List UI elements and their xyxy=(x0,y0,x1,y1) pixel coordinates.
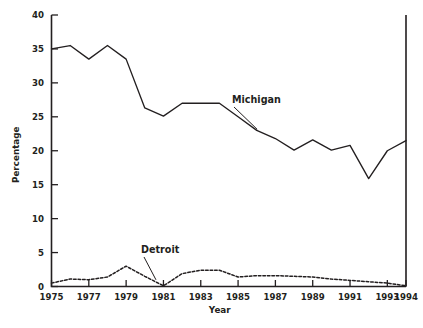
y-tick-label-10: 10 xyxy=(32,214,44,224)
y-tick-label-35: 35 xyxy=(32,44,44,54)
series-annotation-detroit: Detroit xyxy=(141,244,180,255)
y-tick-label-30: 30 xyxy=(32,78,44,88)
x-tick-label-1985: 1985 xyxy=(226,292,250,302)
x-tick-label-1975: 1975 xyxy=(40,292,64,302)
series-annotation-michigan: Michigan xyxy=(232,94,281,105)
x-tick-label-1989: 1989 xyxy=(301,292,325,302)
y-tick-label-40: 40 xyxy=(32,10,44,20)
y-tick-label-0: 0 xyxy=(38,282,44,292)
y-tick-label-20: 20 xyxy=(32,146,44,156)
x-tick-label-1994: 1994 xyxy=(394,292,418,302)
chart-figure: 0510152025303540197519771979198119831985… xyxy=(0,0,423,328)
leader-line-michigan xyxy=(234,107,257,129)
y-tick-label-25: 25 xyxy=(32,112,44,122)
y-axis-title: Percentage xyxy=(11,126,21,183)
x-tick-label-1981: 1981 xyxy=(151,292,175,302)
x-tick-label-1979: 1979 xyxy=(114,292,138,302)
x-axis-title: Year xyxy=(208,305,231,315)
line-chart: 0510152025303540197519771979198119831985… xyxy=(0,0,423,328)
x-tick-label-1987: 1987 xyxy=(263,292,287,302)
x-tick-label-1991: 1991 xyxy=(338,292,362,302)
x-tick-label-1983: 1983 xyxy=(189,292,213,302)
y-tick-label-5: 5 xyxy=(38,248,44,258)
y-tick-label-15: 15 xyxy=(32,180,44,190)
series-line-michigan xyxy=(52,46,407,179)
x-tick-label-1977: 1977 xyxy=(77,292,101,302)
series-line-detroit xyxy=(52,266,407,286)
